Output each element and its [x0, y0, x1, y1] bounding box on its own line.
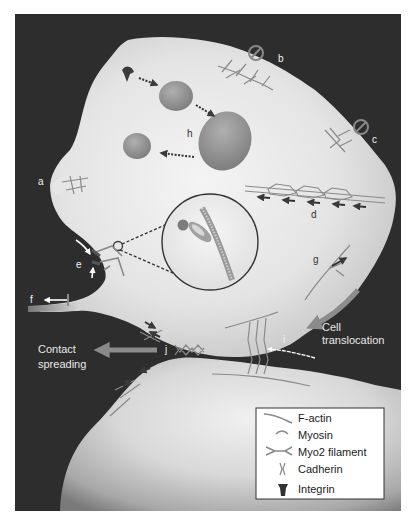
legend: F-actin Myosin Myo2 filament Cadherin In… — [256, 408, 384, 499]
cell-translocation-label-1: Cell — [322, 321, 341, 333]
legend-label-myo2-filament: Myo2 filament — [298, 446, 366, 458]
label-d: d — [311, 209, 317, 220]
label-f: f — [30, 294, 33, 305]
label-h: h — [187, 128, 193, 139]
label-j: j — [164, 344, 167, 355]
cell-migration-diagram: a b c d e f g h i j Cell translocation C… — [0, 0, 413, 523]
label-b: b — [278, 53, 284, 64]
label-e: e — [76, 259, 82, 270]
label-i: i — [283, 334, 285, 345]
legend-label-integrin: Integrin — [298, 483, 335, 495]
label-a: a — [38, 176, 44, 187]
label-c: c — [372, 134, 377, 145]
legend-label-cadherin: Cadherin — [298, 463, 343, 475]
contact-spreading-label-2: spreading — [38, 358, 86, 370]
label-g: g — [313, 254, 319, 265]
legend-label-f-actin: F-actin — [298, 412, 332, 424]
contact-spreading-label-1: Contact — [38, 343, 76, 355]
legend-label-myosin: Myosin — [298, 429, 333, 441]
cell-translocation-label-2: translocation — [322, 334, 384, 346]
